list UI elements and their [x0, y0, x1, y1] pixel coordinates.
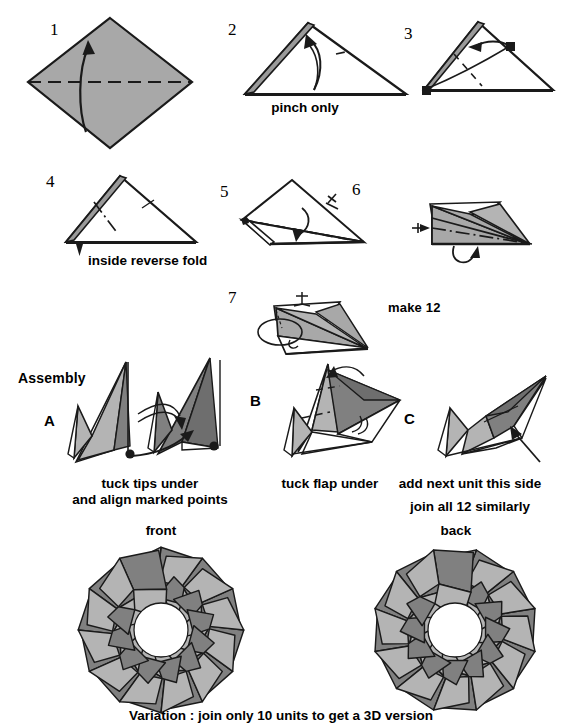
step-caption-2: pinch only [271, 100, 339, 115]
step-figure-1 [20, 10, 200, 155]
assembly-figure-B [268, 360, 418, 468]
assembly-caption-C-line2: join all 12 similarly [410, 499, 530, 514]
assembly-caption-C-line1: add next unit this side [399, 476, 542, 491]
assembly-caption-A-line2: and align marked points [72, 492, 227, 507]
step-number-3: 3 [404, 24, 413, 44]
assembly-letter-A: A [44, 412, 55, 429]
step-figure-4 [56, 170, 206, 252]
step-figure-5 [234, 176, 370, 256]
step-figure-3 [418, 18, 558, 100]
variation-caption: Variation : join only 10 units to get a … [129, 708, 433, 723]
assembly-caption-A-line1: tuck tips under [102, 476, 199, 491]
result-label-back: back [441, 523, 472, 538]
step-number-6: 6 [352, 180, 361, 200]
result-figure-front [66, 540, 256, 720]
step-figure-2 [240, 18, 410, 103]
step-number-2: 2 [228, 20, 237, 40]
result-label-front: front [146, 523, 177, 538]
make-units-note: make 12 [388, 300, 441, 315]
assembly-letter-B: B [250, 392, 261, 409]
assembly-caption-B-line1: tuck flap under [282, 476, 379, 491]
step-number-7: 7 [228, 288, 237, 308]
assembly-letter-C: C [404, 410, 415, 427]
step-number-5: 5 [220, 182, 229, 202]
step-figure-7 [258, 292, 388, 362]
step-caption-4: inside reverse fold [88, 253, 207, 268]
assembly-figure-A [62, 358, 242, 470]
assembly-figure-C [422, 368, 561, 468]
step-number-4: 4 [46, 172, 55, 192]
step-figure-6 [408, 192, 553, 272]
result-figure-back [360, 540, 550, 720]
diagram-sheet: 1 2 pinch only 3 [0, 0, 561, 728]
